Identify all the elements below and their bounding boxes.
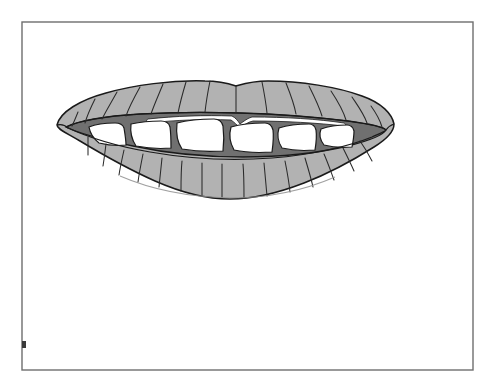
mouth-illustration-svg xyxy=(0,0,494,388)
image-canvas: Mouth Illustration xyxy=(0,0,494,388)
tooth-3 xyxy=(177,119,224,151)
tooth-4 xyxy=(230,123,273,152)
left-border-tick xyxy=(22,341,26,348)
tooth-6 xyxy=(320,125,354,147)
tooth-5 xyxy=(278,124,316,150)
tooth-2 xyxy=(131,121,171,148)
